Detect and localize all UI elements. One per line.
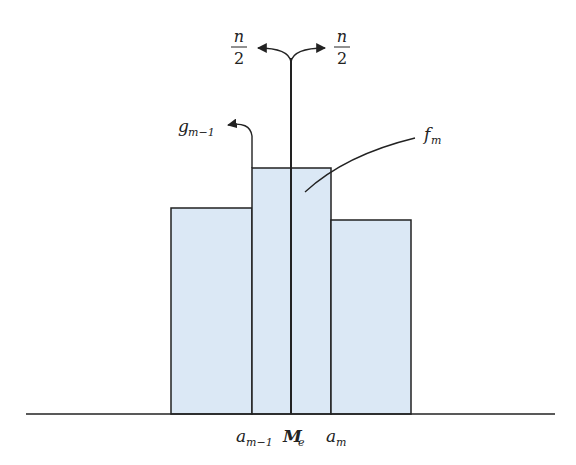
label-cumulative-frequency: g m−1: [178, 116, 215, 139]
svg-text:a: a: [236, 426, 246, 446]
bar-class-before-median: [171, 208, 252, 414]
cumulative-frequency-arrow: [228, 124, 252, 168]
label-median-class-frequency: f m: [422, 124, 441, 147]
label-half-n-left: n 2: [231, 27, 247, 68]
svg-text:m: m: [431, 134, 441, 147]
label-median: M e: [282, 426, 305, 449]
label-lower-class-bound: a m−1: [236, 426, 273, 449]
label-half-n-right: n 2: [334, 27, 350, 68]
svg-text:n: n: [234, 27, 244, 46]
svg-text:n: n: [337, 27, 347, 46]
svg-text:m−1: m−1: [246, 436, 273, 449]
svg-text:2: 2: [234, 49, 244, 68]
svg-text:m: m: [336, 436, 346, 449]
bar-class-after-median: [331, 220, 411, 414]
svg-text:m−1: m−1: [188, 126, 215, 139]
svg-text:e: e: [298, 436, 305, 449]
svg-text:a: a: [326, 426, 336, 446]
median-histogram-diagram: n 2 n 2 g m−1 f m a m−1 M e a m: [0, 0, 576, 465]
svg-text:2: 2: [337, 49, 347, 68]
left-half-arrow: [258, 48, 291, 62]
right-half-arrow: [291, 48, 325, 62]
label-upper-class-bound: a m: [326, 426, 346, 449]
